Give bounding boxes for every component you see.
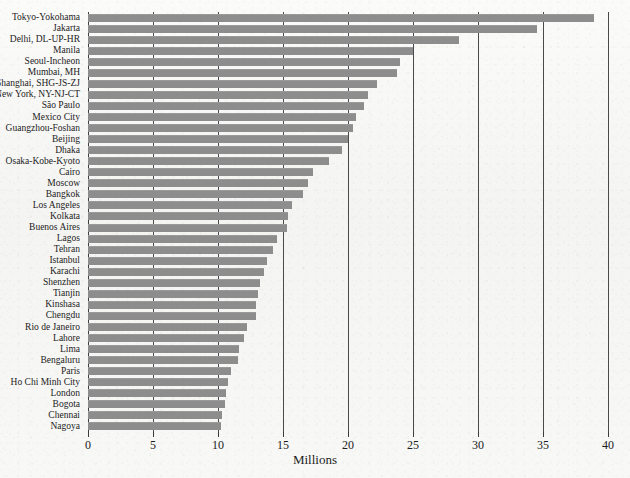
bar[interactable] — [88, 312, 256, 320]
bar[interactable] — [88, 257, 267, 265]
bar-row[interactable] — [88, 290, 608, 298]
bar[interactable] — [88, 179, 308, 187]
bar-row[interactable] — [88, 135, 608, 143]
bar-row[interactable] — [88, 246, 608, 254]
bar[interactable] — [88, 235, 277, 243]
bar[interactable] — [88, 135, 348, 143]
bar-row[interactable] — [88, 268, 608, 276]
bar-row[interactable] — [88, 113, 608, 121]
bar-row[interactable] — [88, 91, 608, 99]
bar-row[interactable] — [88, 400, 608, 408]
x-tick-mark — [543, 432, 544, 437]
y-axis-label: London — [50, 389, 80, 398]
bar[interactable] — [88, 224, 287, 232]
bar-row[interactable] — [88, 378, 608, 386]
bar-row[interactable] — [88, 179, 608, 187]
bar[interactable] — [88, 367, 231, 375]
bar[interactable] — [88, 102, 364, 110]
bar[interactable] — [88, 378, 228, 386]
y-axis-label: Buenos Aires — [29, 223, 80, 232]
bar-row[interactable] — [88, 47, 608, 55]
y-axis-label: Lagos — [57, 234, 80, 243]
bar-row[interactable] — [88, 422, 608, 430]
bar-row[interactable] — [88, 323, 608, 331]
y-axis-label: New York, NY-NJ-CT — [0, 90, 80, 99]
bar-row[interactable] — [88, 201, 608, 209]
bar-row[interactable] — [88, 14, 608, 22]
bar-row[interactable] — [88, 80, 608, 88]
x-tick-label: 5 — [150, 438, 156, 453]
gridline-40 — [608, 12, 609, 432]
y-axis-label: Manila — [53, 46, 80, 55]
bar[interactable] — [88, 58, 400, 66]
bar-row[interactable] — [88, 25, 608, 33]
bar-row[interactable] — [88, 334, 608, 342]
bar-row[interactable] — [88, 312, 608, 320]
bar-row[interactable] — [88, 301, 608, 309]
y-axis-label: Delhi, DL-UP-HR — [10, 35, 80, 44]
bar-row[interactable] — [88, 224, 608, 232]
bar-row[interactable] — [88, 279, 608, 287]
bar-row[interactable] — [88, 235, 608, 243]
bar[interactable] — [88, 91, 368, 99]
bar[interactable] — [88, 14, 594, 22]
bar[interactable] — [88, 69, 397, 77]
bar-row[interactable] — [88, 356, 608, 364]
bar-row[interactable] — [88, 411, 608, 419]
x-tick-mark — [283, 432, 284, 437]
bar[interactable] — [88, 290, 258, 298]
y-axis-category-labels: Tokyo-YokohamaJakartaDelhi, DL-UP-HRMani… — [0, 12, 84, 432]
bar-row[interactable] — [88, 69, 608, 77]
bar-row[interactable] — [88, 190, 608, 198]
bar-row[interactable] — [88, 168, 608, 176]
bar[interactable] — [88, 411, 222, 419]
bar[interactable] — [88, 25, 537, 33]
bar[interactable] — [88, 168, 313, 176]
bar-row[interactable] — [88, 389, 608, 397]
bar-row[interactable] — [88, 146, 608, 154]
bar-row[interactable] — [88, 58, 608, 66]
bar[interactable] — [88, 212, 288, 220]
bar[interactable] — [88, 356, 238, 364]
y-axis-label: Tianjin — [53, 289, 80, 298]
bar[interactable] — [88, 146, 342, 154]
bar-row[interactable] — [88, 157, 608, 165]
bar-row[interactable] — [88, 124, 608, 132]
bar-row[interactable] — [88, 212, 608, 220]
x-tick-label: 25 — [407, 438, 419, 453]
bar[interactable] — [88, 190, 303, 198]
bar[interactable] — [88, 80, 377, 88]
bar[interactable] — [88, 389, 226, 397]
bar[interactable] — [88, 124, 353, 132]
bar[interactable] — [88, 246, 273, 254]
bar[interactable] — [88, 400, 225, 408]
bar[interactable] — [88, 268, 264, 276]
y-axis-label: Bogota — [53, 400, 80, 409]
y-axis-label: Los Angeles — [33, 201, 80, 210]
y-axis-label: São Paulo — [42, 101, 80, 110]
y-axis-label: Mexico City — [32, 113, 80, 122]
bar[interactable] — [88, 279, 260, 287]
bar-row[interactable] — [88, 345, 608, 353]
y-axis-label: Kolkata — [50, 212, 80, 221]
bar[interactable] — [88, 301, 256, 309]
bar[interactable] — [88, 201, 292, 209]
bar-row[interactable] — [88, 257, 608, 265]
bar[interactable] — [88, 113, 356, 121]
bar-row[interactable] — [88, 367, 608, 375]
bar[interactable] — [88, 157, 329, 165]
bar[interactable] — [88, 345, 239, 353]
bar-row[interactable] — [88, 102, 608, 110]
bar[interactable] — [88, 334, 244, 342]
bar-row[interactable] — [88, 36, 608, 44]
x-tick-mark — [608, 432, 609, 437]
bar[interactable] — [88, 323, 247, 331]
bar[interactable] — [88, 422, 221, 430]
x-axis-title: Millions — [0, 452, 630, 468]
plot-area — [88, 12, 608, 432]
x-tick-label: 0 — [85, 438, 91, 453]
bar[interactable] — [88, 47, 413, 55]
y-axis-label: Bangkok — [46, 190, 80, 199]
x-tick-label: 40 — [602, 438, 614, 453]
bar[interactable] — [88, 36, 459, 44]
